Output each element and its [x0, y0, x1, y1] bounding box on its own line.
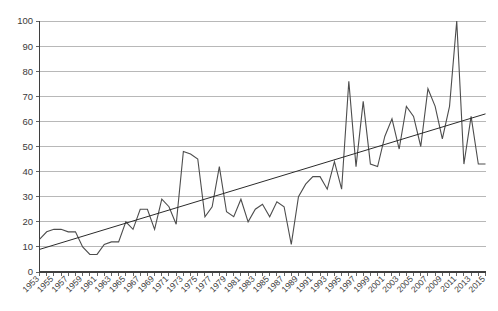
y-tick-label: 90 [22, 41, 33, 52]
y-tick-label: 70 [22, 91, 33, 102]
y-tick-label: 50 [22, 141, 33, 152]
chart-container: 0102030405060708090100 19531955195719591… [0, 0, 498, 311]
y-tick-label: 10 [22, 241, 33, 252]
y-tick-label: 60 [22, 116, 33, 127]
chart-background [0, 0, 498, 311]
y-tick-label: 80 [22, 66, 33, 77]
y-tick-label: 20 [22, 216, 33, 227]
y-tick-label: 40 [22, 166, 33, 177]
y-tick-label: 100 [17, 15, 33, 26]
line-chart: 0102030405060708090100 19531955195719591… [0, 0, 498, 311]
y-tick-label: 30 [22, 191, 33, 202]
